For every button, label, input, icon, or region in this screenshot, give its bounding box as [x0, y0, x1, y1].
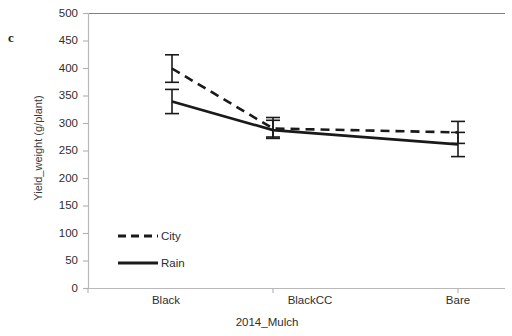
series-city: [165, 55, 465, 144]
chart-figure: c Yield_weight (g/plant) 500 450 400 350…: [0, 0, 512, 336]
x-axis-title: 2014_Mulch: [0, 316, 512, 328]
rain-line: [172, 102, 458, 145]
y-tick-label: 200: [44, 173, 78, 185]
y-tick-label: 250: [44, 145, 78, 157]
y-tick-label: 0: [44, 283, 78, 295]
y-tick-label: 150: [44, 200, 78, 212]
y-tick-label: 350: [44, 90, 78, 102]
y-tick-label: 50: [44, 255, 78, 267]
y-tick-label: 100: [44, 228, 78, 240]
x-axis-title-text: 2014_Mulch: [236, 316, 299, 328]
series-rain: [165, 89, 465, 156]
y-tick-label: 500: [44, 8, 78, 20]
x-tick-label-blackcc: BlackCC: [288, 294, 333, 306]
x-tick-label-black: Black: [152, 294, 180, 306]
x-tick-marks: [88, 289, 458, 294]
city-line: [172, 69, 458, 133]
rain-error-bars: [165, 89, 465, 156]
y-tick-label: 400: [44, 63, 78, 75]
y-tick-label: 450: [44, 35, 78, 47]
y-axis-title: Yield_weight (g/plant): [32, 48, 44, 248]
legend-label-city: City: [161, 230, 181, 242]
panel-label: c: [8, 30, 14, 46]
y-tick-label: 300: [44, 118, 78, 130]
legend-label-rain: Rain: [161, 257, 185, 269]
x-tick-label-bare: Bare: [446, 294, 470, 306]
y-axis-tick-labels: 500 450 400 350 300 250 200 150 100 50 0: [44, 0, 78, 336]
y-tick-marks: [83, 14, 88, 289]
legend-samples: [118, 236, 158, 263]
city-error-bars: [165, 55, 465, 144]
